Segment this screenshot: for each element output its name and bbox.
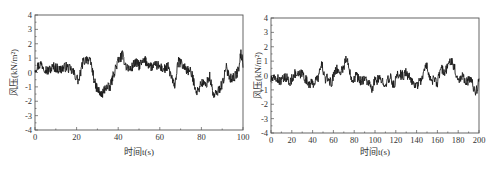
chart-right: 43210-1-2-3-4020406080100120140160180200… [253,13,485,157]
x-tick-label: 80 [350,135,359,145]
x-tick-label: 100 [237,132,250,142]
chart-left: 43210-1-2-3-4020406080100时间t(s)风压(kN/m²) [9,10,249,157]
y-tick-label: -1 [25,82,32,92]
x-tick-label: 60 [156,132,165,142]
y-tick-label: 0 [264,71,268,81]
y-tick-label: 3 [28,24,32,34]
x-tick-label: 0 [269,135,273,145]
y-tick-label: 4 [264,13,269,23]
y-tick-label: -3 [261,114,268,124]
x-tick-label: 20 [288,135,297,145]
x-tick-label: 60 [329,135,338,145]
x-tick-label: 160 [431,135,444,145]
figure: 43210-1-2-3-4020406080100时间t(s)风压(kN/m²)… [0,0,493,171]
x-tick-label: 80 [197,132,206,142]
x-axis-title: 时间t(s) [124,146,154,157]
y-axis-title: 风压(kN/m²) [253,52,263,99]
y-tick-label: 1 [264,56,268,66]
x-tick-label: 40 [114,132,123,142]
series-line-wind-pressure [271,56,479,95]
x-tick-label: 40 [308,135,317,145]
plot-frame [35,15,243,130]
y-tick-label: -4 [25,125,33,135]
y-tick-label: 0 [28,68,32,78]
x-tick-label: 140 [410,135,423,145]
x-tick-label: 200 [473,135,486,145]
x-tick-label: 20 [72,132,81,142]
y-tick-label: -2 [25,96,32,106]
y-tick-label: 2 [28,39,32,49]
x-tick-label: 120 [389,135,402,145]
y-axis-title: 风压(kN/m²) [9,49,19,96]
y-tick-label: 1 [28,53,32,63]
y-tick-label: 3 [264,27,268,37]
y-tick-label: 4 [28,10,33,20]
x-tick-label: 100 [369,135,382,145]
series-line-wind-pressure [35,50,243,98]
x-tick-label: 180 [452,135,465,145]
y-tick-label: -4 [261,128,269,138]
y-tick-label: -3 [25,111,32,121]
y-tick-label: -2 [261,99,268,109]
x-axis-title: 时间t(s) [360,146,390,157]
y-tick-label: 2 [264,42,268,52]
x-tick-label: 0 [33,132,37,142]
